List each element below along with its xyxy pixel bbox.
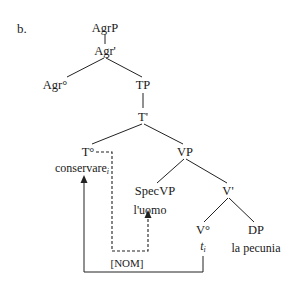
branch-tbar-vp [144, 124, 183, 144]
trace-index: i [204, 245, 206, 254]
branch-vp-specvp [157, 159, 184, 183]
word-conservare: conservarei [55, 161, 109, 179]
node-tp: TP [136, 78, 151, 92]
node-t-head: T° [82, 145, 95, 159]
example-label: b. [17, 21, 27, 37]
branch-agrbar-tp [106, 58, 142, 77]
branch-vp-vbar [186, 159, 227, 183]
index-i: i [107, 167, 109, 176]
branch-vbar-dp [229, 198, 254, 222]
branch-agrbar-agrhead [67, 58, 104, 77]
word-luomo: l'uomo [134, 203, 167, 217]
word-conservare-text: conservare [55, 161, 107, 175]
trace: ti [200, 239, 206, 257]
word-la-pecunia: la pecunia [232, 241, 281, 255]
node-dp: DP [248, 223, 264, 237]
node-agrp: AgrP [92, 21, 118, 35]
node-agr-bar: Agr' [94, 44, 116, 58]
branch-tbar-thead [92, 124, 142, 144]
node-v-head: V° [196, 223, 210, 237]
branch-vbar-vhead [204, 198, 228, 222]
node-agr-head: Agr° [43, 78, 67, 92]
node-t-bar: T' [138, 110, 148, 124]
node-vp: VP [177, 145, 193, 159]
node-v-bar: V' [222, 184, 233, 198]
node-spec-vp: SpecVP [135, 184, 175, 198]
case-label-nom: [NOM] [111, 256, 144, 270]
